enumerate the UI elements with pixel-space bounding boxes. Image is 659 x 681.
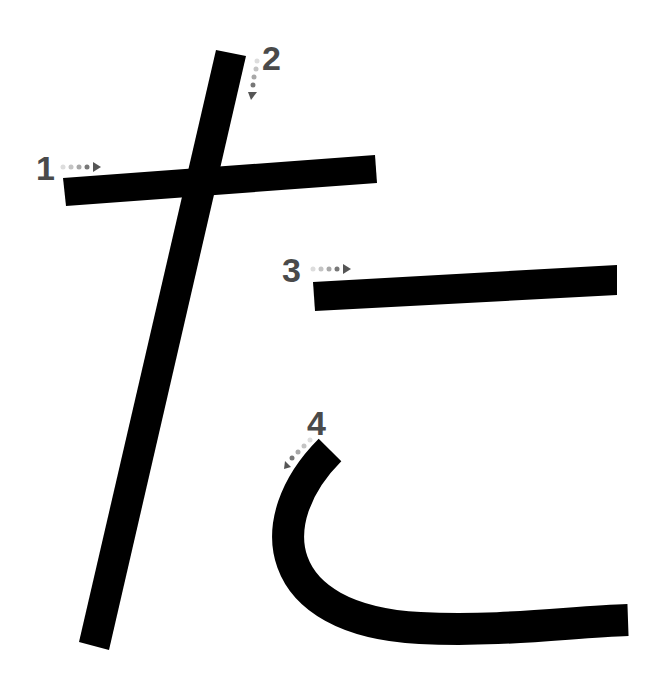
arrow-down-icon — [248, 59, 260, 101]
stroke-number-1: 1 — [36, 149, 55, 187]
stroke-number-4: 4 — [307, 404, 326, 442]
stroke-2 — [79, 50, 246, 650]
stroke-label-2: 2 — [248, 39, 281, 100]
stroke-number-3: 3 — [282, 251, 301, 289]
arrow-right-icon — [311, 264, 352, 274]
stroke-4 — [288, 450, 628, 629]
stroke-number-2: 2 — [262, 39, 281, 77]
arrow-right-icon — [61, 162, 102, 172]
stroke-order-diagram: 1 2 3 4 — [0, 0, 659, 681]
stroke-3 — [313, 265, 617, 311]
